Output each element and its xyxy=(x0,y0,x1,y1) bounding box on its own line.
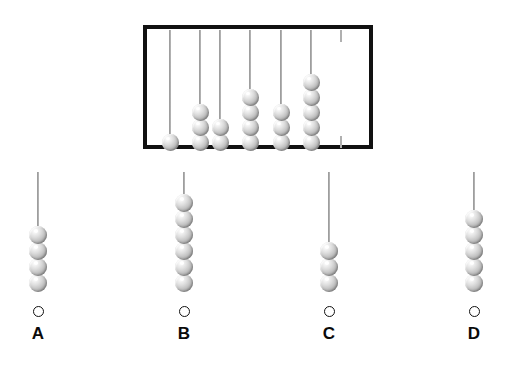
bead xyxy=(465,210,483,228)
choice-label-a[interactable]: A xyxy=(28,325,48,342)
bead xyxy=(29,274,47,292)
choice-label-c[interactable]: C xyxy=(319,325,339,342)
bead xyxy=(303,119,320,136)
choice-rod-a xyxy=(37,172,39,289)
choice-rod-b xyxy=(183,172,185,289)
bead xyxy=(175,226,193,244)
bead xyxy=(29,258,47,276)
abacus-question-diagram: ABCD xyxy=(0,0,514,372)
bead xyxy=(242,104,259,121)
bead xyxy=(273,104,290,121)
radio-d[interactable] xyxy=(469,306,480,317)
rod-7-bottom-stub xyxy=(340,136,342,148)
bead xyxy=(303,134,320,151)
bead xyxy=(175,210,193,228)
bead xyxy=(192,134,209,151)
bead xyxy=(212,134,229,151)
bead xyxy=(175,194,193,212)
choice-rod-d xyxy=(473,172,475,289)
choice-label-d[interactable]: D xyxy=(464,325,484,342)
bead xyxy=(303,89,320,106)
choice-rod-c xyxy=(328,172,330,289)
bead xyxy=(212,119,229,136)
bead xyxy=(242,119,259,136)
radio-b[interactable] xyxy=(179,306,190,317)
bead xyxy=(320,258,338,276)
bead xyxy=(273,134,290,151)
bead xyxy=(175,258,193,276)
bead xyxy=(192,119,209,136)
bead xyxy=(242,89,259,106)
radio-c[interactable] xyxy=(324,306,335,317)
bead xyxy=(465,258,483,276)
bead xyxy=(162,134,179,151)
bead xyxy=(29,226,47,244)
bead xyxy=(465,226,483,244)
bead xyxy=(465,242,483,260)
bead xyxy=(192,104,209,121)
bead xyxy=(175,274,193,292)
bead xyxy=(320,242,338,260)
rod-1 xyxy=(169,30,171,146)
radio-a[interactable] xyxy=(33,306,44,317)
bead xyxy=(29,242,47,260)
bead xyxy=(242,134,259,151)
bead xyxy=(465,274,483,292)
bead xyxy=(303,74,320,91)
bead xyxy=(175,242,193,260)
bead xyxy=(320,274,338,292)
bead xyxy=(303,104,320,121)
bead xyxy=(273,119,290,136)
choice-label-b[interactable]: B xyxy=(174,325,194,342)
rod-7-top-stub xyxy=(340,30,342,42)
